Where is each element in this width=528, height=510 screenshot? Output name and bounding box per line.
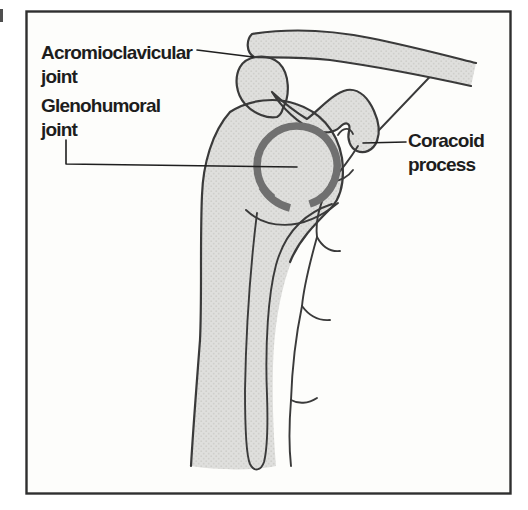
label-line: process [408,153,484,177]
label-line: Acromioclavicular [41,41,192,65]
leader-line-coracoid [363,142,406,143]
scan-artifact [0,9,3,22]
label-line: Glenohumoral [41,94,160,118]
shoulder-anatomy-figure: Acromioclavicular joint Glenohumoral joi… [0,0,528,510]
label-line: joint [41,65,192,89]
label-line: Coracoid [408,129,484,153]
label-coracoid-process: Coracoid process [408,129,484,177]
label-glenohumoral-joint: Glenohumoral joint [41,94,160,142]
label-acromioclavicular-joint: Acromioclavicular joint [41,41,192,89]
label-line: joint [41,118,160,142]
